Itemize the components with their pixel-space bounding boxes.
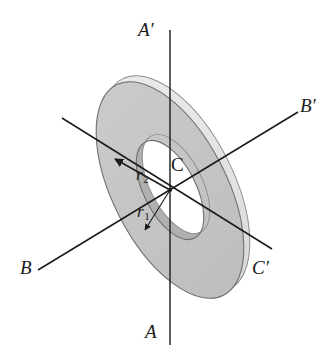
label-axis-b: B [20, 258, 32, 277]
figure-root: A′ A B′ B C′ C r2 r1 [0, 0, 336, 353]
disk-inner-wall [0, 0, 336, 353]
label-inner-radius: r1 [137, 203, 149, 220]
disk-body [0, 0, 336, 353]
label-axis-a-prime: A′ [138, 20, 154, 39]
label-axis-b-prime: B′ [300, 96, 316, 115]
label-outer-radius-subscript: 2 [143, 173, 149, 185]
label-axis-a: A [145, 322, 157, 341]
label-inner-radius-symbol: r [137, 202, 144, 221]
center-point-marker [168, 188, 172, 192]
label-outer-radius: r2 [136, 166, 148, 183]
label-inner-radius-subscript: 1 [144, 210, 150, 222]
diagram-canvas [0, 0, 336, 353]
label-center-c: C [171, 155, 184, 174]
label-axis-c-prime: C′ [252, 258, 269, 277]
label-outer-radius-symbol: r [136, 165, 143, 184]
